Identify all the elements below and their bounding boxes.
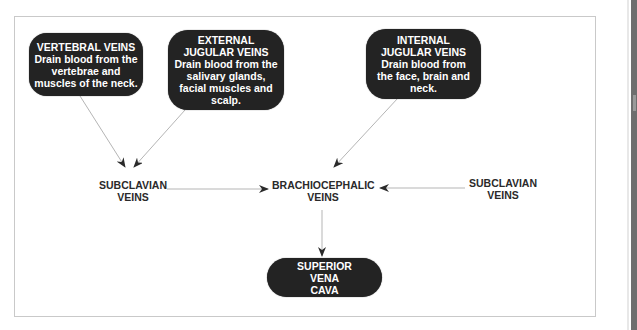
node-external-jugular-veins: EXTERNAL JUGULAR VEINS Drain blood from … bbox=[168, 30, 284, 110]
node-internal-jugular-veins: INTERNAL JUGULAR VEINS Drain blood from … bbox=[366, 29, 481, 99]
node-vertebral-veins: VERTEBRAL VEINS Drain blood from the ver… bbox=[29, 33, 143, 96]
node-description: Drain blood from the vertebrae and muscl… bbox=[33, 53, 139, 89]
node-title: SUPERIOR VENA CAVA bbox=[297, 260, 352, 296]
node-subclavian-veins-right: SUBCLAVIAN VEINS bbox=[463, 177, 543, 201]
node-description: Drain blood from the salivary glands, fa… bbox=[174, 58, 278, 106]
node-description: Drain blood from the face, brain and nec… bbox=[374, 58, 473, 94]
node-title: VERTEBRAL VEINS bbox=[33, 41, 139, 53]
node-superior-vena-cava: SUPERIOR VENA CAVA bbox=[267, 258, 382, 297]
node-title: INTERNAL JUGULAR VEINS bbox=[374, 34, 473, 58]
node-subclavian-veins-left: SUBCLAVIAN VEINS bbox=[93, 179, 173, 203]
arrow-external-jugular-to-subclavian bbox=[134, 110, 185, 167]
arrow-internal-jugular-to-brachiocephalic bbox=[334, 98, 398, 167]
node-title: EXTERNAL JUGULAR VEINS bbox=[174, 34, 278, 58]
node-brachiocephalic-veins: BRACHIOCEPHALIC VEINS bbox=[272, 179, 374, 203]
arrow-vertebral-to-subclavian bbox=[80, 96, 125, 167]
